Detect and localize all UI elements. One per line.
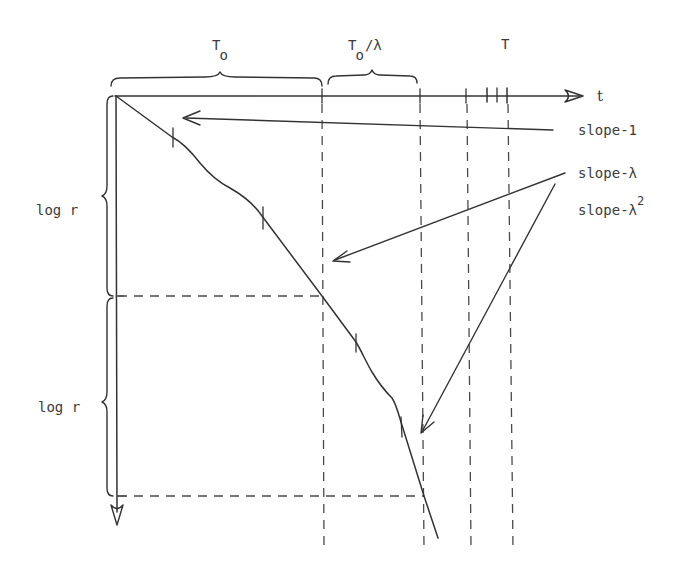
- arrow-slope-lambda: [333, 173, 565, 262]
- brace-t0: [111, 72, 322, 86]
- label-slope-lambda: slope-λ: [578, 165, 637, 181]
- brace-t0-over-lambda: [328, 70, 417, 84]
- label-log-r-upper: log r: [36, 202, 78, 218]
- brace-log-r-upper: [102, 96, 113, 296]
- arrow-slope-lambda-squared: [421, 184, 555, 433]
- label-t0-over-lambda: To/λ: [348, 37, 382, 63]
- log-slope-diagram: To To/λ T t log r log r: [0, 0, 697, 568]
- log-r-axis: [111, 96, 126, 525]
- label-log-r-lower: log r: [38, 399, 80, 415]
- decay-curve: [116, 96, 438, 538]
- brace-log-r-lower: [102, 298, 113, 496]
- label-t-scale: T: [501, 36, 510, 52]
- time-axis: [115, 88, 583, 103]
- label-t0: To: [212, 37, 228, 63]
- axis-label-t: t: [597, 87, 603, 105]
- label-slope-lambda-squared: slope-λ2: [578, 194, 644, 218]
- dashed-guides: [118, 104, 513, 548]
- label-slope-1: slope-1: [578, 122, 637, 138]
- arrow-slope-1: [183, 111, 553, 130]
